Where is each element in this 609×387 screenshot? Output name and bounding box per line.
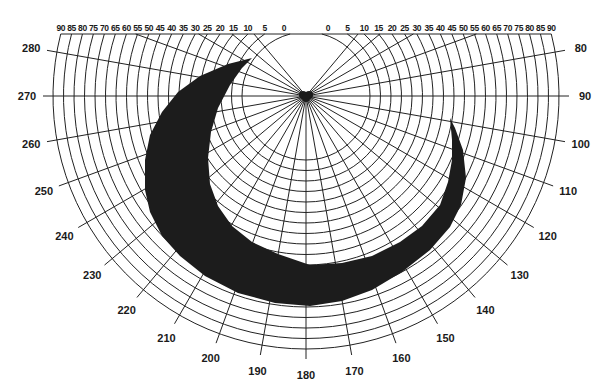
meridian-label-260: 260 [22,138,40,150]
scale-label: 20 [388,23,397,33]
scale-label: 15 [229,23,238,33]
meridian-label-80: 80 [575,42,587,54]
scale-label: 80 [525,23,534,33]
meridian-label-100: 100 [572,138,590,150]
scale-label: 15 [374,23,383,33]
scale-label: 50 [144,23,153,33]
scale-label: 40 [436,23,445,33]
scale-label: 0 [326,23,331,33]
scale-label: 55 [470,23,479,33]
eccentricity-scale-labels: 9085807570656055504540353025201510500510… [56,23,556,33]
meridian-label-230: 230 [83,269,101,281]
scale-label: 85 [536,23,545,33]
meridian-label-180: 180 [297,369,315,381]
scale-label: 45 [156,23,165,33]
scale-label: 5 [263,23,268,33]
scale-label: 80 [78,23,87,33]
scale-label: 30 [191,23,200,33]
visual-field-chart: 9085807570656055504540353025201510500510… [0,0,609,387]
scale-label: 10 [360,23,369,33]
scale-label: 55 [133,23,142,33]
scale-label: 20 [216,23,225,33]
scale-label: 60 [481,23,490,33]
scale-label: 5 [345,23,350,33]
meridian-label-150: 150 [436,332,454,344]
meridian-label-140: 140 [476,304,494,316]
meridian-label-130: 130 [511,269,529,281]
scale-label: 65 [111,23,120,33]
meridian-label-110: 110 [559,185,577,197]
scale-label: 75 [89,23,98,33]
meridian-label-90: 90 [579,90,591,102]
scale-label: 35 [424,23,433,33]
scale-label: 75 [514,23,523,33]
scale-label: 45 [448,23,457,33]
scale-label: 90 [56,23,65,33]
scale-label: 85 [67,23,76,33]
meridian-label-190: 190 [248,365,266,377]
scale-label: 0 [282,23,287,33]
scale-label: 35 [179,23,188,33]
scale-label: 30 [413,23,422,33]
scale-label: 40 [167,23,176,33]
scale-label: 50 [459,23,468,33]
meridian-label-160: 160 [392,352,410,364]
meridian-label-210: 210 [157,332,175,344]
scale-label: 60 [122,23,131,33]
meridian-label-200: 200 [201,352,219,364]
meridian-label-280: 280 [22,42,40,54]
meridian-label-120: 120 [538,230,556,242]
meridian-label-240: 240 [55,230,73,242]
meridian-label-170: 170 [345,365,363,377]
scale-label: 25 [400,23,409,33]
scale-label: 25 [203,23,212,33]
scale-label: 90 [547,23,556,33]
scale-label: 10 [244,23,253,33]
scale-label: 70 [100,23,109,33]
scale-label: 65 [492,23,501,33]
meridian-label-270: 270 [18,90,36,102]
meridian-label-250: 250 [35,185,53,197]
scale-label: 70 [503,23,512,33]
meridian-label-220: 220 [117,304,135,316]
